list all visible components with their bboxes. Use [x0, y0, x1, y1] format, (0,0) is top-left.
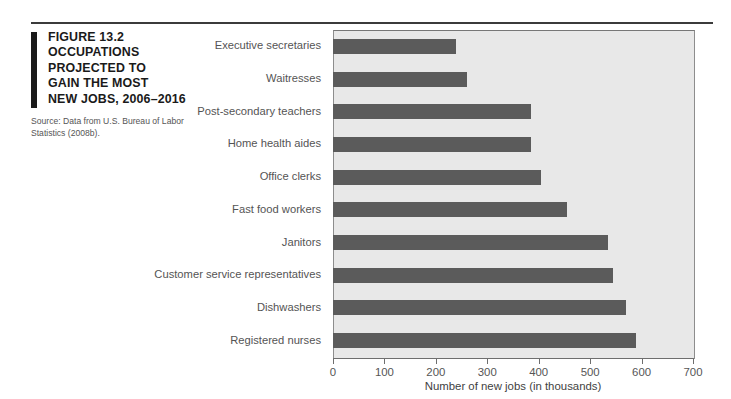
bar	[333, 300, 626, 315]
category-label: Dishwashers	[1, 301, 321, 314]
x-axis-tick-label: 0	[310, 366, 356, 378]
x-axis-tick	[436, 358, 437, 364]
figure-container: FIGURE 13.2 OCCUPATIONS PROJECTED TO GAI…	[0, 0, 731, 399]
x-axis-tick	[590, 358, 591, 364]
bar-row	[333, 128, 693, 161]
x-axis-tick	[642, 358, 643, 364]
x-axis-tick-label: 600	[619, 366, 665, 378]
x-axis: 0100200300400500600700	[333, 358, 693, 359]
bar-row	[333, 161, 693, 194]
bar	[333, 39, 456, 54]
bar-row	[333, 95, 693, 128]
category-label: Janitors	[1, 236, 321, 249]
x-axis-tick-label: 300	[464, 366, 510, 378]
x-axis-tick	[487, 358, 488, 364]
category-label: Executive secretaries	[1, 39, 321, 52]
category-label: Registered nurses	[1, 334, 321, 347]
x-axis-tick-label: 200	[413, 366, 459, 378]
x-axis-title: Number of new jobs (in thousands)	[333, 380, 693, 392]
x-axis-tick	[333, 358, 334, 364]
bar-row	[333, 63, 693, 96]
category-label: Office clerks	[1, 170, 321, 183]
bar	[333, 170, 541, 185]
x-axis-tick-label: 700	[670, 366, 716, 378]
x-axis-tick-label: 400	[516, 366, 562, 378]
x-axis-tick-label: 100	[361, 366, 407, 378]
bar	[333, 137, 531, 152]
x-axis-tick	[693, 358, 694, 364]
x-axis-tick-label: 500	[567, 366, 613, 378]
x-axis-line	[333, 358, 693, 359]
x-axis-tick	[384, 358, 385, 364]
bar-row	[333, 226, 693, 259]
bar-row	[333, 30, 693, 63]
bar-row	[333, 194, 693, 227]
category-label: Post-secondary teachers	[1, 105, 321, 118]
bar	[333, 72, 467, 87]
category-axis-labels: Executive secretariesWaitressesPost-seco…	[0, 30, 327, 357]
bars-layer	[333, 30, 693, 357]
category-label: Waitresses	[1, 72, 321, 85]
bar	[333, 268, 613, 283]
bar	[333, 235, 608, 250]
category-label: Fast food workers	[1, 203, 321, 216]
bar-row	[333, 324, 693, 357]
category-label: Home health aides	[1, 137, 321, 150]
category-label: Customer service representatives	[1, 268, 321, 281]
figure-top-rule	[31, 22, 713, 24]
bar	[333, 202, 567, 217]
x-axis-tick	[539, 358, 540, 364]
bar-row	[333, 292, 693, 325]
bar	[333, 333, 636, 348]
bar	[333, 104, 531, 119]
bar-row	[333, 259, 693, 292]
